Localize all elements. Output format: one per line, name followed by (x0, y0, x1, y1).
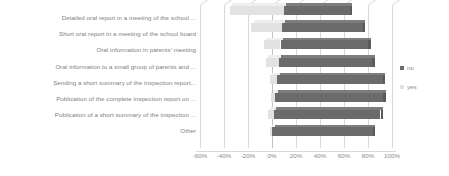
bar-segment-yes (266, 58, 279, 67)
bar-segment-yes (264, 40, 281, 49)
category-label: Short oral report in a meeting of the sc… (0, 30, 196, 38)
chart-legend: noyes (400, 64, 445, 102)
value-tick-label: 40% (314, 152, 326, 159)
category-label: Oral information to a small group of par… (0, 63, 196, 71)
value-tick-label: 80% (362, 152, 374, 159)
bar-top-face-no (286, 3, 352, 6)
bar-end-face-no (363, 23, 366, 32)
bar-top-face-yes (232, 3, 286, 6)
bar-top-face-no (281, 55, 375, 58)
legend-swatch-icon (400, 66, 404, 70)
value-axis-labels: -60%-40%-20%0%20%40%60%80%100% (196, 152, 416, 166)
bar-segment-no (284, 6, 350, 15)
value-tick-label: 20% (290, 152, 302, 159)
bar-top-face-yes (254, 20, 285, 23)
bar-segment-no (277, 75, 383, 84)
legend-label: yes (407, 83, 417, 90)
bar-row (196, 75, 396, 84)
bar-segment-yes (270, 75, 277, 84)
bar-segment-no (275, 93, 383, 102)
bar-end-face-no (368, 40, 371, 49)
bar-chart: Detailed oral report in a meeting of the… (0, 0, 449, 176)
bar-segment-no (272, 127, 373, 136)
bar-row (196, 93, 396, 102)
bar-row (196, 40, 396, 49)
bar-end-face-no (383, 93, 386, 102)
bar-segment-yes (230, 6, 284, 15)
bar-end-face-no (373, 127, 376, 136)
bar-top-face-no (285, 20, 365, 23)
category-label: Publication of the complete inspection r… (0, 95, 196, 103)
bar-row (196, 58, 396, 67)
category-label: Publication of a short summary of the in… (0, 111, 196, 119)
value-tick-label: 60% (338, 152, 350, 159)
bar-end-face-no (350, 6, 353, 15)
bar-top-face-no (278, 90, 386, 93)
bar-end-face-no (383, 75, 386, 84)
bar-row (196, 110, 396, 119)
bar-top-face-no (276, 107, 383, 110)
category-label: Sending a short summary of the inspectio… (0, 79, 196, 87)
category-label: Detailed oral report in a meeting of the… (0, 14, 196, 22)
value-tick-label: 0% (268, 152, 277, 159)
legend-label: no (407, 64, 414, 71)
bar-end-face-no (372, 58, 375, 67)
bar-end-face-no (381, 110, 384, 119)
legend-item[interactable]: yes (400, 83, 445, 90)
bar-row (196, 127, 396, 136)
bar-row (196, 6, 396, 15)
value-tick-label: -20% (241, 152, 255, 159)
value-tick-label: 100% (384, 152, 400, 159)
plot-area (196, 6, 396, 152)
bar-segment-no (279, 58, 373, 67)
category-label: Oral information in parents' meeting (0, 46, 196, 54)
value-tick-label: -40% (217, 152, 231, 159)
category-axis-labels: Detailed oral report in a meeting of the… (0, 8, 196, 148)
bar-segment-no (281, 40, 369, 49)
bar-segment-yes (251, 23, 282, 32)
bar-segment-no (282, 23, 362, 32)
bar-top-face-no (275, 125, 376, 128)
legend-item[interactable]: no (400, 64, 445, 71)
bar-row (196, 23, 396, 32)
bar-top-face-no (283, 38, 371, 41)
legend-swatch-icon (400, 85, 404, 89)
bars-layer (196, 6, 396, 152)
bar-segment-no (274, 110, 381, 119)
value-tick-label: -60% (193, 152, 207, 159)
bar-top-face-no (280, 73, 386, 76)
category-label: Other (0, 127, 196, 135)
